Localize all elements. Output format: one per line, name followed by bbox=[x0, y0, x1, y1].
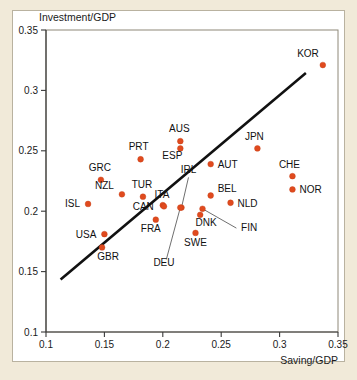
point-label-nld: NLD bbox=[238, 198, 258, 209]
x-tick-label: 0.25 bbox=[211, 339, 231, 350]
data-point-nld[interactable] bbox=[228, 200, 234, 206]
point-label-irl: IRL bbox=[181, 164, 197, 175]
y-tick-label: 0.25 bbox=[19, 145, 39, 156]
data-point-tur[interactable] bbox=[140, 194, 146, 200]
data-point-swe[interactable] bbox=[193, 230, 199, 236]
point-label-fin: FIN bbox=[241, 222, 257, 233]
x-tick-label: 0.35 bbox=[328, 339, 348, 350]
point-label-dnk: DNK bbox=[196, 217, 217, 228]
data-point-bel[interactable] bbox=[208, 193, 214, 199]
regression-line bbox=[61, 73, 306, 280]
leader-line-deu bbox=[166, 208, 180, 260]
figure-page: 0.10.150.20.250.30.350.10.150.20.250.30.… bbox=[0, 0, 357, 380]
point-label-isl: ISL bbox=[65, 198, 80, 209]
leader-line-irl bbox=[181, 177, 188, 207]
data-point-aut[interactable] bbox=[208, 161, 214, 167]
data-point-kor[interactable] bbox=[320, 62, 326, 68]
data-point-ita[interactable] bbox=[161, 203, 167, 209]
point-label-swe: SWE bbox=[184, 237, 207, 248]
y-tick-label: 0.2 bbox=[24, 206, 38, 217]
data-point-aus[interactable] bbox=[177, 138, 183, 144]
point-label-deu: DEU bbox=[153, 257, 174, 268]
point-label-can: CAN bbox=[133, 201, 154, 212]
point-label-ita: ITA bbox=[155, 189, 170, 200]
point-label-esp: ESP bbox=[162, 150, 182, 161]
point-label-gbr: GBR bbox=[97, 251, 119, 262]
scatter-chart: 0.10.150.20.250.30.350.10.150.20.250.30.… bbox=[0, 0, 357, 380]
plot-area bbox=[46, 30, 338, 332]
data-point-isl[interactable] bbox=[85, 201, 91, 207]
x-axis-title: Saving/GDP bbox=[280, 354, 338, 366]
y-tick-label: 0.1 bbox=[24, 327, 38, 338]
point-label-tur: TUR bbox=[132, 179, 153, 190]
data-point-fin[interactable] bbox=[200, 206, 206, 212]
point-label-usa: USA bbox=[76, 229, 97, 240]
x-tick-label: 0.15 bbox=[95, 339, 115, 350]
point-label-bel: BEL bbox=[218, 183, 237, 194]
data-point-nor[interactable] bbox=[290, 187, 296, 193]
data-point-jpn[interactable] bbox=[255, 145, 261, 151]
data-point-che[interactable] bbox=[290, 173, 296, 179]
point-label-nor: NOR bbox=[299, 184, 321, 195]
data-point-deu[interactable] bbox=[177, 205, 183, 211]
point-label-jpn: JPN bbox=[245, 131, 264, 142]
data-point-usa[interactable] bbox=[102, 231, 108, 237]
point-label-aus: AUS bbox=[169, 123, 190, 134]
y-tick-label: 0.15 bbox=[19, 266, 39, 277]
x-tick-label: 0.3 bbox=[273, 339, 287, 350]
x-tick-label: 0.1 bbox=[39, 339, 53, 350]
point-label-grc: GRC bbox=[89, 162, 111, 173]
point-label-fra: FRA bbox=[141, 223, 161, 234]
data-point-nzl[interactable] bbox=[119, 191, 125, 197]
y-axis-title: Investment/GDP bbox=[39, 11, 116, 23]
y-tick-label: 0.3 bbox=[24, 85, 38, 96]
point-label-nzl: NZL bbox=[95, 180, 114, 191]
point-label-kor: KOR bbox=[297, 48, 319, 59]
point-label-prt: PRT bbox=[129, 141, 149, 152]
x-tick-label: 0.2 bbox=[156, 339, 170, 350]
data-point-prt[interactable] bbox=[138, 156, 144, 162]
point-label-aut: AUT bbox=[218, 159, 238, 170]
y-tick-label: 0.35 bbox=[19, 25, 39, 36]
point-label-che: CHE bbox=[279, 159, 300, 170]
data-point-gbr[interactable] bbox=[99, 245, 105, 251]
